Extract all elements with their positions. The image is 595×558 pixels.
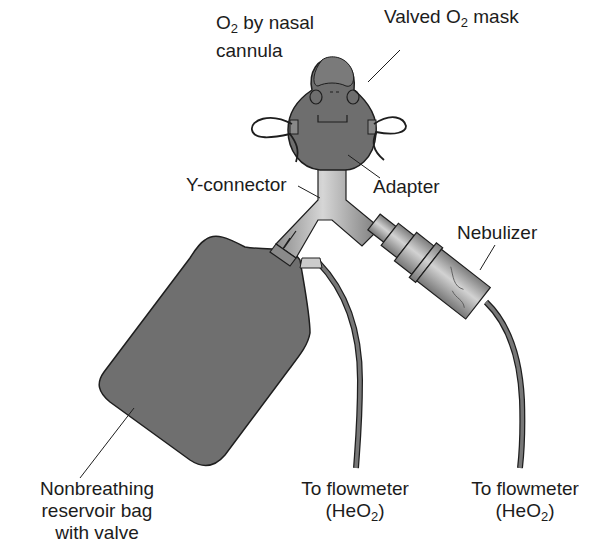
- label-flowmeter-right: To flowmeter (HeO2): [455, 478, 595, 528]
- flowmeter-tube-right: [486, 302, 522, 468]
- label-adapter: Adapter: [373, 176, 440, 198]
- label-reservoir-bag: Nonbreathing reservoir bag with valve: [22, 478, 172, 544]
- reservoir-bag: [99, 236, 310, 465]
- face-mask: [288, 57, 376, 170]
- label-valved-mask: Valved O2 mask: [384, 6, 519, 34]
- label-flowmeter-left: To flowmeter (HeO2): [285, 478, 425, 528]
- label-y-connector: Y-connector: [186, 174, 287, 196]
- label-nasal-cannula: O2 by nasal cannula: [216, 12, 314, 62]
- flowmeter-tube-left: [318, 262, 360, 468]
- label-nebulizer: Nebulizer: [457, 222, 537, 244]
- heliox-setup-diagram: [0, 0, 595, 558]
